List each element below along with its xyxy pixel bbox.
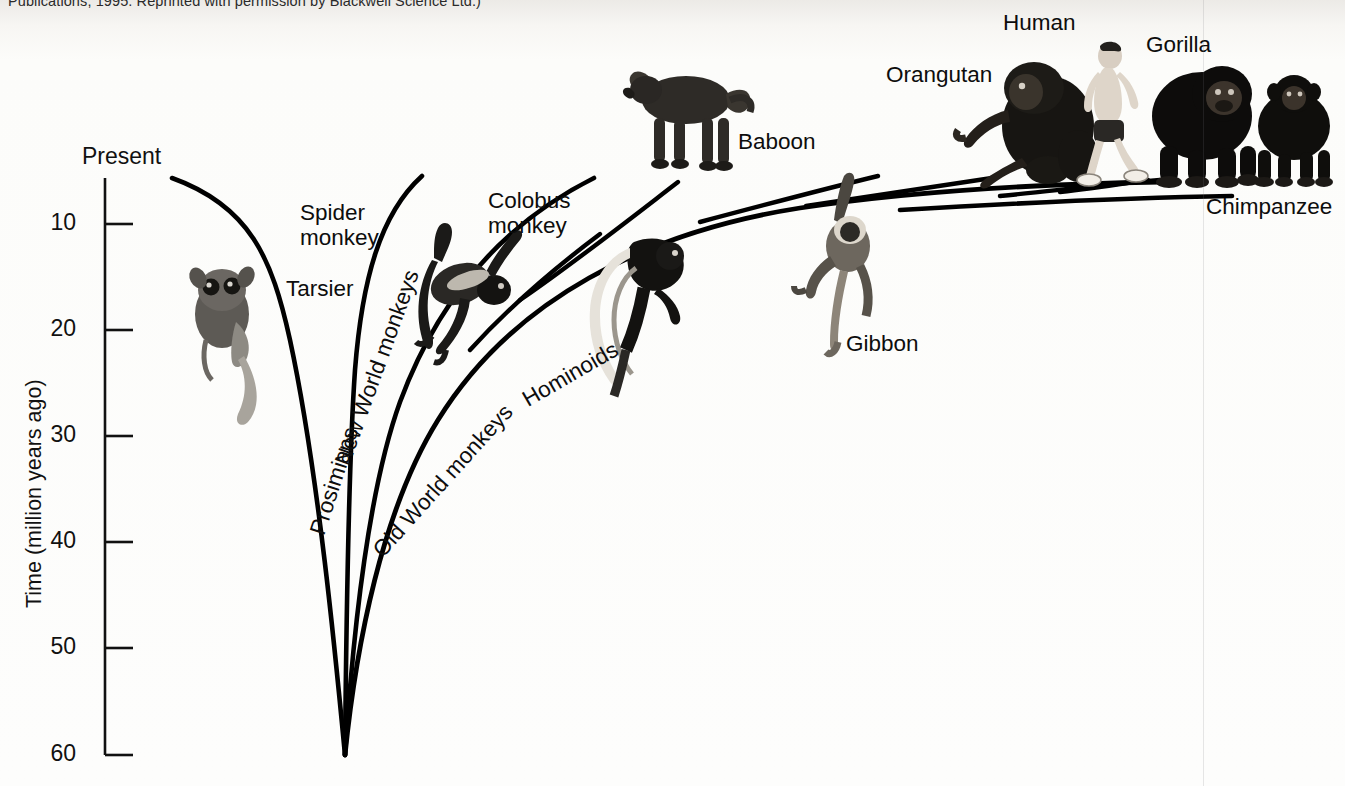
- label-gibbon: Gibbon: [846, 331, 919, 356]
- label-colobus-monkey: Colobus monkey: [488, 188, 571, 238]
- label-chimpanzee: Chimpanzee: [1206, 194, 1332, 219]
- axis-present-label: Present: [82, 143, 161, 170]
- figure-caption-strip: Publications, 1995. Reprinted with permi…: [0, 0, 1345, 14]
- label-baboon: Baboon: [738, 129, 816, 154]
- label-spider-monkey: Spider monkey: [300, 200, 379, 250]
- branch-chimpanzee: [900, 196, 1232, 210]
- axis-tick-label-10: 10: [28, 209, 76, 236]
- primate-phylogeny-figure: Publications, 1995. Reprinted with permi…: [0, 0, 1345, 786]
- label-tarsier: Tarsier: [286, 276, 354, 301]
- axis-tick-label-50: 50: [28, 633, 76, 660]
- label-gorilla: Gorilla: [1146, 32, 1211, 57]
- axis-tick-label-60: 60: [28, 740, 76, 767]
- figure-caption-text: Publications, 1995. Reprinted with permi…: [8, 0, 481, 9]
- axis-tick-label-20: 20: [28, 315, 76, 342]
- chimpanzee-illustration: [1244, 70, 1344, 188]
- tarsier-illustration: [176, 256, 294, 424]
- label-orangutan: Orangutan: [886, 62, 992, 87]
- axis-title: Time (million years ago): [22, 379, 47, 608]
- baboon-illustration: [620, 60, 756, 172]
